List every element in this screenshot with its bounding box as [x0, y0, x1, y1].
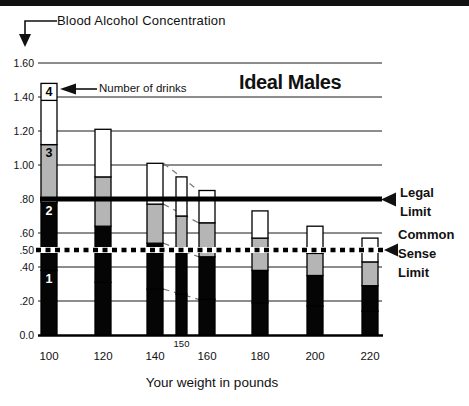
x-tick-label: 140 — [135, 350, 175, 362]
bar-segment — [199, 191, 215, 223]
bar-segment — [95, 226, 111, 282]
bar-segment — [176, 216, 187, 250]
bar-segment — [95, 177, 111, 226]
bar-segment — [362, 286, 378, 312]
bar-segment — [95, 282, 111, 335]
segment-number-label: 2 — [41, 205, 57, 218]
bar-segment — [252, 303, 268, 335]
bac-chart: Blood Alcohol Concentration Ideal Males … — [0, 0, 469, 406]
x-tick-label: 200 — [295, 350, 335, 362]
x-tick-label: 180 — [240, 350, 280, 362]
bar-segment — [176, 294, 187, 335]
legal-limit-label: Legal Limit — [400, 184, 448, 221]
y-tick-label: .40 — [0, 261, 34, 273]
x-tick-label: 220 — [350, 350, 390, 362]
y-tick-label: 1.60 — [0, 57, 34, 69]
chart-canvas — [0, 0, 469, 406]
number-of-drinks-label: Number of drinks — [99, 82, 187, 94]
y-tick-label: 1.40 — [0, 91, 34, 103]
bar-segment — [199, 299, 215, 335]
bar-segment — [362, 262, 378, 286]
y-tick-label: 0.0 — [0, 329, 34, 341]
segment-number-label: 1 — [41, 273, 57, 286]
x-tick-label: 160 — [187, 350, 227, 362]
bar-segment — [252, 270, 268, 302]
x-tick-label: 150 — [162, 338, 202, 349]
bar-segment — [147, 289, 163, 335]
bac-axis-arrow-icon — [19, 21, 57, 47]
bar-segment — [147, 204, 163, 243]
legal-limit-arrow-icon — [381, 193, 396, 207]
bar-segment — [252, 211, 268, 238]
x-tick-label: 120 — [83, 350, 123, 362]
number-of-drinks-arrow-icon — [60, 84, 97, 95]
y-tick-label: 1.00 — [0, 159, 34, 171]
bac-axis-label: Blood Alcohol Concentration — [57, 13, 226, 28]
bar-segment — [307, 306, 323, 335]
common-sense-arrow-icon — [384, 244, 398, 257]
y-tick-label: .50 — [0, 244, 34, 256]
chart-title: Ideal Males — [239, 71, 341, 94]
bar-segment — [362, 311, 378, 335]
segment-number-label: 3 — [41, 147, 57, 160]
bar-segment — [176, 250, 187, 294]
y-tick-label: .60 — [0, 227, 34, 239]
bar-segment — [307, 276, 323, 307]
y-tick-label: 1.20 — [0, 125, 34, 137]
common-sense-limit-label: Common Sense Limit — [398, 225, 464, 282]
bar-segment — [307, 253, 323, 275]
bar-segment — [176, 177, 187, 216]
y-tick-label: .80 — [0, 193, 34, 205]
bar-segment — [199, 257, 215, 300]
bar-segment — [95, 129, 111, 177]
x-tick-label: 100 — [29, 350, 69, 362]
bars-layer — [41, 83, 378, 335]
bar-segment — [252, 238, 268, 270]
segment-number-label: 4 — [41, 86, 57, 99]
x-axis-title: Your weight in pounds — [122, 375, 302, 390]
y-tick-label: .20 — [0, 295, 34, 307]
